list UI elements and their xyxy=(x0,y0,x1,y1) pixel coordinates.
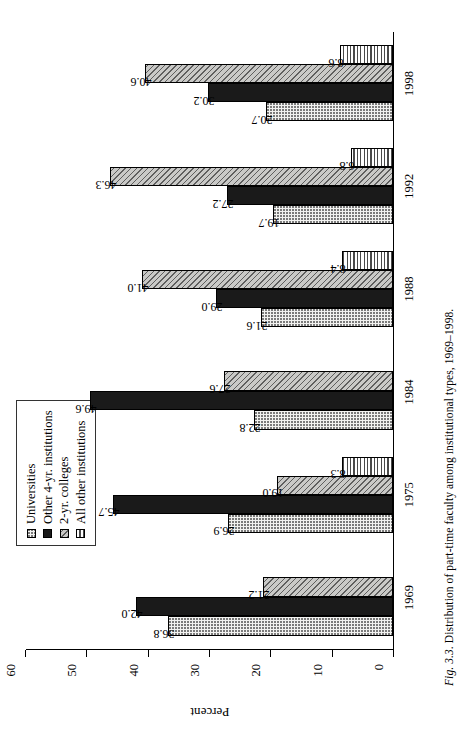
bar-2yr-colleges: 21.2 xyxy=(263,577,393,597)
bar-universities: 20.7 xyxy=(266,102,393,121)
bar-group: 26.945.719.08.31975 xyxy=(26,443,393,546)
bar-value-label: 20.7 xyxy=(252,112,273,127)
bar-group: 20.730.240.68.61998 xyxy=(26,32,393,135)
bar-group-bars: 22.849.627.6 xyxy=(26,354,393,430)
bar-value-label: 42.0 xyxy=(122,606,143,621)
bar-value-label: 19.7 xyxy=(258,215,279,230)
bar-other-4yr: 49.6 xyxy=(90,391,393,411)
y-tick-label: 10 xyxy=(310,664,325,694)
y-tick-label: 0 xyxy=(372,664,387,694)
bar-value-label: 36.8 xyxy=(153,626,174,641)
bar-value-label: 45.7 xyxy=(99,504,120,519)
bar-group: 21.629.041.08.41988 xyxy=(26,238,393,341)
figure-3-3: Universities Other 4-yr. institutions 2-… xyxy=(0,0,461,742)
bar-value-label: 27.2 xyxy=(212,196,233,211)
plot-area: Percent 0102030405060 36.842.021.2196926… xyxy=(26,32,394,650)
y-tick-mark xyxy=(209,650,210,657)
bar-all-other: 6.8 xyxy=(351,148,393,167)
bar-universities: 26.9 xyxy=(228,514,393,533)
bar-value-label: 8.4 xyxy=(330,261,345,276)
x-tick-label: 1984 xyxy=(402,379,417,404)
x-tick-label: 1988 xyxy=(402,277,417,302)
figure-caption-text: Distribution of part-time faculty among … xyxy=(443,309,455,643)
bar-value-label: 30.2 xyxy=(194,93,215,108)
bar-value-label: 8.3 xyxy=(331,466,346,481)
y-tick-mark xyxy=(25,650,26,657)
y-tick-label: 60 xyxy=(4,664,19,694)
figure-number: Fig. 3.3. xyxy=(443,646,455,686)
bar-2yr-colleges: 41.0 xyxy=(142,270,393,289)
bar-other-4yr: 29.0 xyxy=(216,289,393,308)
bar-all-other: 8.6 xyxy=(340,45,393,64)
bar-groups: 36.842.021.2196926.945.719.08.3197522.84… xyxy=(26,32,393,649)
bar-group-bars: 26.945.719.08.3 xyxy=(26,457,393,533)
bar-other-4yr: 45.7 xyxy=(113,495,393,514)
bar-value-label: 46.3 xyxy=(95,177,116,192)
bar-value-label: 22.8 xyxy=(239,420,260,435)
bar-universities: 36.8 xyxy=(168,616,393,636)
bar-universities: 21.6 xyxy=(261,308,393,327)
y-axis-line xyxy=(26,649,394,650)
bar-other-4yr: 30.2 xyxy=(208,83,393,102)
bar-value-label: 49.6 xyxy=(75,401,96,416)
bar-group-bars: 36.842.021.2 xyxy=(26,560,393,636)
bar-universities: 19.7 xyxy=(273,205,393,224)
bar-value-label: 19.0 xyxy=(262,485,283,500)
bar-group-bars: 21.629.041.08.4 xyxy=(26,251,393,327)
bar-universities: 22.8 xyxy=(254,410,393,430)
bar-all-other: 8.3 xyxy=(342,457,393,476)
bar-group-bars: 20.730.240.68.6 xyxy=(26,45,393,121)
y-tick-label: 50 xyxy=(65,664,80,694)
x-axis-line xyxy=(393,32,394,650)
bar-2yr-colleges: 40.6 xyxy=(145,64,393,83)
bar-value-label: 41.0 xyxy=(128,280,149,295)
bar-value-label: 21.2 xyxy=(249,587,270,602)
x-tick-label: 1975 xyxy=(402,482,417,507)
y-tick-label: 20 xyxy=(249,664,264,694)
bar-value-label: 40.6 xyxy=(130,74,151,89)
bar-group-bars: 19.727.246.36.8 xyxy=(26,148,393,224)
rotated-figure-canvas: Universities Other 4-yr. institutions 2-… xyxy=(0,0,461,742)
y-tick-mark xyxy=(332,650,333,657)
bar-group: 22.849.627.61984 xyxy=(26,341,393,444)
y-tick-label: 40 xyxy=(126,664,141,694)
y-axis-title: Percent xyxy=(191,704,230,720)
bar-value-label: 21.6 xyxy=(246,318,267,333)
bar-group: 19.727.246.36.81992 xyxy=(26,135,393,238)
y-tick-mark xyxy=(86,650,87,657)
bar-value-label: 8.6 xyxy=(329,55,344,70)
figure-caption: Fig. 3.3. Distribution of part-time facu… xyxy=(443,309,455,686)
bar-value-label: 29.0 xyxy=(201,299,222,314)
bar-group: 36.842.021.21969 xyxy=(26,546,393,649)
y-tick-label: 30 xyxy=(188,664,203,694)
bar-2yr-colleges: 27.6 xyxy=(224,371,393,391)
bar-value-label: 26.9 xyxy=(214,523,235,538)
bar-value-label: 6.8 xyxy=(340,158,355,173)
y-tick-mark xyxy=(270,650,271,657)
y-tick-mark xyxy=(148,650,149,657)
bar-value-label: 27.6 xyxy=(210,381,231,396)
x-tick-label: 1969 xyxy=(402,585,417,610)
x-tick-label: 1998 xyxy=(402,71,417,96)
bar-other-4yr: 27.2 xyxy=(227,186,393,205)
x-tick-label: 1992 xyxy=(402,174,417,199)
bar-all-other: 8.4 xyxy=(342,251,393,270)
y-tick-mark xyxy=(393,650,394,657)
